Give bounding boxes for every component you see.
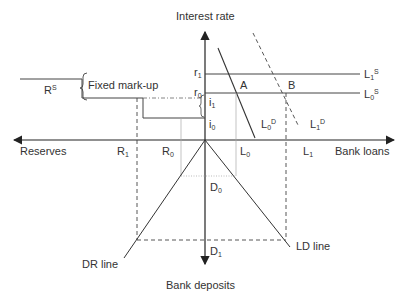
l0d-sup: D [271,118,276,125]
vertical-axis-top-label: Interest rate [176,11,235,22]
i1-sub: 1 [211,102,215,109]
point-b-label: B [288,80,295,91]
d1-quantity-label: D1 [210,246,222,258]
fixed-markup-label: Fixed mark-up [88,80,158,91]
qd1-base: D [210,245,218,257]
qd1-sub: 1 [218,251,222,258]
markup-brace [80,73,87,100]
l1d-sup: D [320,118,325,125]
r1-sub: 1 [198,72,202,79]
l1s-label: L1S [364,68,379,81]
l0s-label: L0S [364,88,379,101]
qr1-base: R [117,145,125,157]
r0-sub: 0 [198,92,202,99]
l0d-sub: 0 [267,124,271,131]
l1s-sub: 1 [370,74,374,81]
r1-label: r1 [194,67,202,79]
reserve-supply-label: RS [44,84,57,96]
l1d-label: L1D [310,118,325,131]
rs-sup: S [52,84,57,91]
l1d-sub: 1 [316,124,320,131]
l0s-sup: S [374,88,379,95]
ld-line-label: LD line [296,241,330,252]
qr1-sub: 1 [125,151,129,158]
i0-sub: 0 [211,124,215,131]
point-a-label: A [240,80,247,91]
qr0-sub: 0 [170,151,174,158]
i1-label: i1 [209,97,215,109]
r0-label: r0 [194,87,202,99]
dr-line-label: DR line [82,259,118,270]
l1s-sup: S [374,68,379,75]
r0-quantity-label: R0 [162,146,174,158]
rs-base: R [44,84,52,96]
vertical-axis-bottom-label: Bank deposits [166,280,235,291]
i0-label: i0 [209,119,215,131]
ql1-sub: 1 [309,151,313,158]
qd0-sub: 0 [218,187,222,194]
horizontal-axis-left-label: Reserves [20,146,66,157]
ql0-sub: 0 [246,151,250,158]
r1-quantity-label: R1 [117,146,129,158]
qd0-base: D [210,181,218,193]
l1-quantity-label: L1 [303,146,313,158]
qr0-base: R [162,145,170,157]
d0-quantity-label: D0 [210,182,222,194]
l0s-sub: 0 [370,94,374,101]
horizontal-axis-right-label: Bank loans [335,146,389,157]
l0-quantity-label: L0 [240,146,250,158]
l0d-label: L0D [261,118,276,131]
